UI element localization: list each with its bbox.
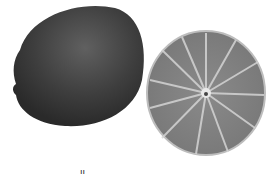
caption-fragment: li xyxy=(80,170,85,174)
lime-photo xyxy=(0,0,272,174)
lime-slice xyxy=(147,31,265,155)
whole-lime xyxy=(13,6,144,126)
